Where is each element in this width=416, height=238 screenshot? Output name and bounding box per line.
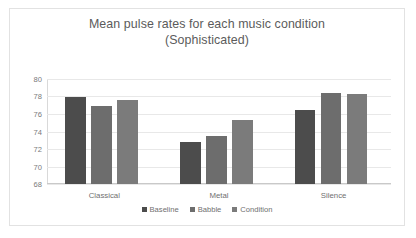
x-category-label-metal: Metal: [162, 191, 277, 200]
legend-label: Condition: [240, 205, 272, 214]
bar-group-metal: Metal: [162, 79, 277, 184]
gridline-68: [47, 184, 391, 185]
bar-classical-baseline[interactable]: [65, 97, 86, 185]
legend-label: Baseline: [150, 205, 179, 214]
y-tick-label: 74: [34, 127, 42, 136]
bar-classical-condition[interactable]: [117, 100, 138, 184]
x-category-label-classical: Classical: [47, 191, 162, 200]
chart-legend: BaselineBabbleCondition: [10, 205, 404, 214]
bar-silence-babble[interactable]: [321, 93, 342, 184]
bar-metal-babble[interactable]: [206, 136, 227, 184]
y-tick-label: 72: [34, 144, 42, 153]
bar-metal-condition[interactable]: [232, 120, 253, 184]
y-tick-label: 76: [34, 109, 42, 118]
legend-swatch-icon: [232, 207, 237, 212]
bar-group-silence: Silence: [276, 79, 391, 184]
chart-title-line-2: (Sophisticated): [10, 32, 404, 48]
x-category-label-silence: Silence: [276, 191, 391, 200]
chart-title-line-1: Mean pulse rates for each music conditio…: [89, 17, 325, 31]
legend-label: Babble: [198, 205, 222, 214]
plot-area: 80787674727068 ClassicalMetalSilence: [47, 79, 391, 184]
y-tick-label: 80: [34, 75, 42, 84]
legend-item-baseline[interactable]: Baseline: [142, 205, 179, 214]
y-tick-label: 70: [34, 162, 42, 171]
chart-container: Mean pulse rates for each music conditio…: [9, 8, 405, 226]
legend-swatch-icon: [190, 207, 195, 212]
bar-silence-baseline[interactable]: [295, 110, 316, 184]
bar-group-classical: Classical: [47, 79, 162, 184]
bar-classical-babble[interactable]: [91, 106, 112, 184]
legend-item-babble[interactable]: Babble: [190, 205, 222, 214]
chart-title: Mean pulse rates for each music conditio…: [10, 16, 404, 48]
legend-item-condition[interactable]: Condition: [232, 205, 272, 214]
y-tick-label: 78: [34, 92, 42, 101]
bar-metal-baseline[interactable]: [180, 142, 201, 184]
bar-silence-condition[interactable]: [347, 94, 368, 184]
legend-swatch-icon: [142, 207, 147, 212]
y-tick-label: 68: [34, 180, 42, 189]
